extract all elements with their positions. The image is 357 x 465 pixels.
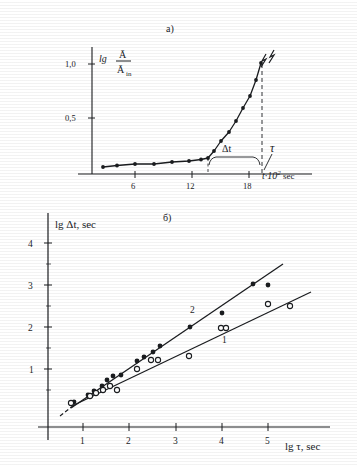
panel-a-ylabel-lg: lg (99, 53, 107, 64)
data-point (265, 301, 270, 306)
panel-b-ytick-label-1: 1 (29, 365, 34, 375)
panel-b: б) 4 3 2 1 1 2 (28, 212, 330, 452)
tau-label: τ (270, 141, 275, 155)
panel-a-y-ticks: 1,0 0,5 (65, 59, 95, 123)
panel-a-xtick-label-18: 18 (243, 181, 252, 191)
data-point (220, 311, 225, 316)
data-point (142, 355, 147, 360)
data-point (248, 94, 252, 98)
panel-a: a) 1,0 0,5 6 12 18 lg Ā Ā in (65, 23, 312, 191)
data-point (266, 283, 271, 288)
data-point (254, 78, 258, 82)
panel-a-label: a) (166, 23, 174, 35)
panel-b-xtick-label-1: 1 (80, 436, 85, 446)
panel-b-label: б) (163, 212, 171, 224)
data-point (107, 383, 112, 388)
panel-b-xtick-label-4: 4 (219, 436, 224, 446)
figure-svg: a) 1,0 0,5 6 12 18 lg Ā Ā in (0, 0, 357, 465)
data-point (133, 162, 137, 166)
panel-a-y-axis-label: lg Ā Ā in (99, 49, 132, 78)
data-point (218, 325, 223, 330)
data-point (152, 162, 156, 166)
data-point (170, 160, 174, 164)
data-point (101, 165, 105, 169)
data-point (287, 303, 292, 308)
panel-b-curve-label-1: 1 (222, 335, 227, 345)
data-point (93, 390, 98, 395)
panel-b-curve-label-2: 2 (190, 305, 195, 315)
delta-t-brace (209, 157, 260, 165)
panel-a-xtick-label-12: 12 (186, 181, 195, 191)
data-point (227, 130, 231, 134)
data-point (251, 282, 256, 287)
data-point (212, 149, 216, 153)
data-point (148, 357, 153, 362)
data-point (115, 164, 119, 168)
data-point (134, 366, 139, 371)
panel-a-data-curve (103, 63, 261, 167)
zigzag-break-icon (261, 50, 274, 67)
data-point (151, 350, 156, 355)
panel-a-xtick-label-6: 6 (131, 181, 135, 191)
data-point (105, 378, 110, 383)
panel-b-xtick-label-5: 5 (265, 436, 270, 446)
data-point (241, 106, 245, 110)
panel-b-ytick-label-3: 3 (28, 281, 33, 291)
panel-a-ylabel-denominator: Ā (117, 64, 125, 75)
data-point (186, 353, 191, 358)
panel-a-x-axis-label: t·102 sec (262, 169, 295, 181)
panel-b-fit-line-2-dashed-lead (60, 405, 74, 416)
panel-b-series-2-points (72, 282, 271, 405)
panel-b-ytick-label-2: 2 (28, 323, 33, 333)
panel-b-xtick-label-2: 2 (126, 436, 131, 446)
panel-b-y-axis-label: lg Δt, sec (55, 218, 96, 230)
panel-a-ytick-label-1: 1,0 (65, 59, 76, 69)
data-point (68, 400, 73, 405)
data-point (114, 387, 119, 392)
tau-pointer-line (264, 154, 272, 170)
panel-a-ytick-label-0-5: 0,5 (65, 113, 76, 123)
panel-a-ylabel-numerator: Ā (119, 49, 127, 60)
data-point (87, 393, 92, 398)
delta-t-label: Δt (222, 143, 231, 154)
panel-b-x-axis-label: lg τ, sec (285, 440, 320, 452)
data-point (223, 325, 228, 330)
panel-a-ylabel-subscript: in (126, 70, 132, 78)
data-point (187, 159, 191, 163)
data-point (188, 325, 193, 330)
data-point (100, 387, 105, 392)
panel-b-xtick-label-3: 3 (173, 436, 178, 446)
data-point (135, 359, 140, 364)
data-point (158, 344, 163, 349)
panel-b-ytick-label-4: 4 (28, 239, 33, 249)
data-point (119, 373, 124, 378)
data-point (155, 357, 160, 362)
figure-container: a) 1,0 0,5 6 12 18 lg Ā Ā in (0, 0, 357, 465)
data-point (199, 158, 203, 162)
data-point (234, 119, 238, 123)
data-point (111, 374, 116, 379)
